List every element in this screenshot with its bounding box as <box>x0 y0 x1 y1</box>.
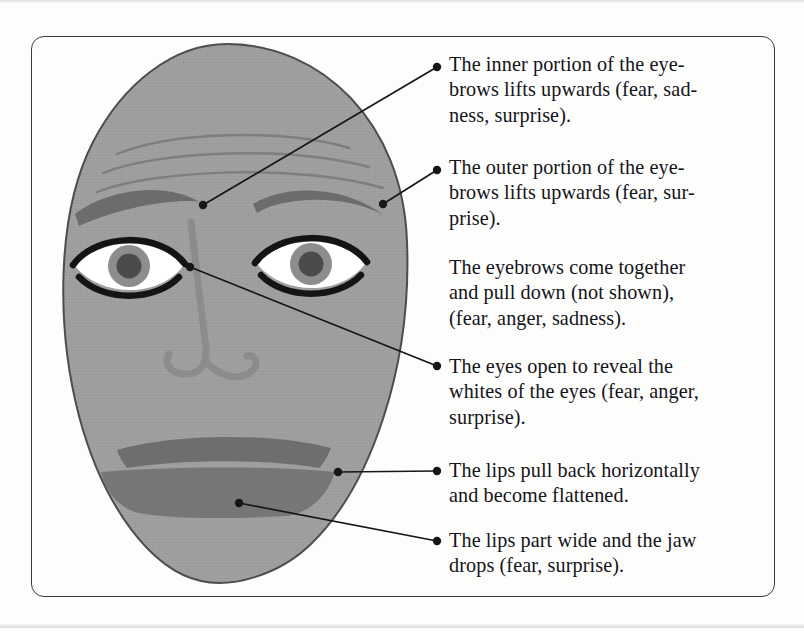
callout-line: and become flattened. <box>449 483 759 508</box>
callout-line: The eyebrows come together <box>449 255 759 280</box>
callout-list: The inner portion of the eye- brows lift… <box>449 44 765 589</box>
callout-line: (fear, anger, sadness). <box>449 306 759 331</box>
callout-line: surprise). <box>449 405 759 430</box>
right-eye <box>255 238 367 294</box>
callout-outer-eyebrows: The outer portion of the eye- brows lift… <box>449 155 759 231</box>
callout-line: drops (fear, surprise). <box>449 553 759 578</box>
callout-line: The inner portion of the eye- <box>449 52 759 77</box>
scan-edge-bottom <box>0 624 804 628</box>
callout-lips-part: The lips part wide and the jaw drops (fe… <box>449 528 759 579</box>
callout-line: ness, surprise). <box>449 103 759 128</box>
callout-inner-eyebrows: The inner portion of the eye- brows lift… <box>449 52 759 128</box>
callout-line: brows lifts upwards (fear, sur- <box>449 180 759 205</box>
callout-line: whites of the eyes (fear, anger, <box>449 379 759 404</box>
left-eye <box>73 240 185 296</box>
callout-eyebrows-together: The eyebrows come together and pull down… <box>449 255 759 331</box>
lower-lip <box>101 468 335 519</box>
callout-line: The eyes open to reveal the <box>449 354 759 379</box>
callout-eyes-open: The eyes open to reveal the whites of th… <box>449 354 759 430</box>
figure-page: The inner portion of the eye- brows lift… <box>0 0 804 631</box>
face-illustration <box>31 36 451 597</box>
callout-line: prise). <box>449 206 759 231</box>
callout-line: The lips pull back horizontally <box>449 458 759 483</box>
callout-line: The outer portion of the eye- <box>449 155 759 180</box>
callout-line: and pull down (not shown), <box>449 280 759 305</box>
callout-line: The lips part wide and the jaw <box>449 528 759 553</box>
callout-line: brows lifts upwards (fear, sad- <box>449 77 759 102</box>
scan-edge-top <box>0 0 804 3</box>
callout-lips-pull-back: The lips pull back horizontally and beco… <box>449 458 759 509</box>
